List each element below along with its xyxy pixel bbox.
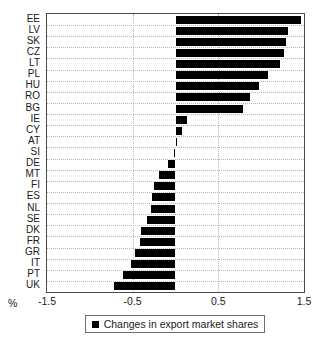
category-label-cy: CY <box>0 125 40 135</box>
bar-at <box>176 138 177 146</box>
bar-pl <box>176 71 269 79</box>
bar-de <box>168 160 176 168</box>
category-label-pt: PT <box>0 269 40 279</box>
bar-bg <box>176 105 244 113</box>
bar-es <box>152 193 175 201</box>
category-label-nl: NL <box>0 203 40 213</box>
bar-ro <box>176 93 251 101</box>
category-label-fr: FR <box>0 236 40 246</box>
xtick-label: 1.5 <box>297 294 312 308</box>
category-label-bg: BG <box>0 103 40 113</box>
category-label-hu: HU <box>0 80 40 90</box>
bar-pt <box>123 271 175 279</box>
bar-sk <box>176 38 287 46</box>
category-label-ie: IE <box>0 114 40 124</box>
bar-ee <box>176 16 301 24</box>
gridline-horizontal <box>47 203 304 204</box>
category-label-ee: EE <box>0 14 40 24</box>
bar-se <box>147 216 175 224</box>
gridline-horizontal <box>47 281 304 282</box>
gridline-horizontal <box>47 147 304 148</box>
gridline-horizontal <box>47 170 304 171</box>
bar-gr <box>135 249 175 257</box>
category-label-es: ES <box>0 191 40 201</box>
gridline-vertical <box>133 14 134 292</box>
category-label-mt: MT <box>0 169 40 179</box>
bar-mt <box>159 171 175 179</box>
bar-it <box>131 260 176 268</box>
category-label-at: AT <box>0 136 40 146</box>
bar-ie <box>176 116 188 124</box>
category-axis-labels: EELVSKCZLTPLHUROBGIECYATSIDEMTFIESNLSEDK… <box>0 13 43 293</box>
gridline-horizontal <box>47 225 304 226</box>
category-label-fi: FI <box>0 180 40 190</box>
export-market-shares-chart: EELVSKCZLTPLHUROBGIECYATSIDEMTFIESNLSEDK… <box>0 0 325 343</box>
x-axis-tick-labels: -1.5-0.50.51.5 <box>0 294 325 310</box>
bar-nl <box>151 205 176 213</box>
category-label-de: DE <box>0 158 40 168</box>
chart-legend: Changes in export market shares <box>85 315 265 333</box>
bar-fi <box>154 182 175 190</box>
gridline-horizontal <box>47 270 304 271</box>
category-label-gr: GR <box>0 247 40 257</box>
bar-lt <box>176 60 281 68</box>
bar-fr <box>140 238 175 246</box>
bar-uk <box>114 282 176 290</box>
gridline-horizontal <box>47 236 304 237</box>
category-label-ro: RO <box>0 91 40 101</box>
bar-si <box>174 149 176 157</box>
gridline-horizontal <box>47 259 304 260</box>
xtick-label: -0.5 <box>124 294 142 308</box>
bar-lv <box>176 27 288 35</box>
category-label-pl: PL <box>0 69 40 79</box>
gridline-horizontal <box>47 248 304 249</box>
legend-label: Changes in export market shares <box>104 318 259 330</box>
gridline-horizontal <box>47 181 304 182</box>
category-label-se: SE <box>0 214 40 224</box>
xtick-label: 0.5 <box>211 294 226 308</box>
category-label-uk: UK <box>0 280 40 290</box>
category-label-it: IT <box>0 258 40 268</box>
plot-area <box>46 13 305 293</box>
bar-hu <box>176 82 259 90</box>
legend-swatch-icon <box>92 321 99 328</box>
xtick-label: -1.5 <box>38 294 56 308</box>
category-label-lv: LV <box>0 25 40 35</box>
category-label-sk: SK <box>0 36 40 46</box>
bar-cz <box>176 49 285 57</box>
category-label-cz: CZ <box>0 47 40 57</box>
gridline-horizontal <box>47 192 304 193</box>
category-label-lt: LT <box>0 58 40 68</box>
bar-cy <box>176 127 183 135</box>
category-label-si: SI <box>0 147 40 157</box>
bar-dk <box>141 227 175 235</box>
gridline-horizontal <box>47 214 304 215</box>
category-label-dk: DK <box>0 225 40 235</box>
gridline-horizontal <box>47 159 304 160</box>
percent-unit-label: % <box>8 296 17 310</box>
